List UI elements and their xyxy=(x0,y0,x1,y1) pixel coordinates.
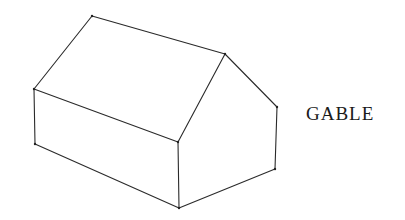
vertex-base_front xyxy=(178,207,180,209)
house-edges xyxy=(34,16,277,208)
vertex-base_right xyxy=(274,168,276,170)
edge-base_front-base_right xyxy=(179,169,275,208)
edge-ridge_front-eave_right xyxy=(225,54,277,107)
edge-eave_left-base_left xyxy=(34,89,35,144)
vertex-eave_front xyxy=(177,141,179,143)
vertex-eave_right xyxy=(276,106,278,108)
vertex-eave_left xyxy=(33,88,35,90)
edge-ridge_back-eave_left xyxy=(34,16,92,89)
edge-ridge_back-ridge_front xyxy=(92,16,225,54)
vertex-ridge_front xyxy=(224,53,226,55)
roof-type-label: GABLE xyxy=(306,103,374,125)
vertex-base_left xyxy=(34,143,36,145)
edge-base_left-base_front xyxy=(35,144,179,208)
edge-ridge_front-eave_front xyxy=(178,54,225,142)
edge-eave_front-base_front xyxy=(178,142,179,208)
vertex-ridge_back xyxy=(91,15,93,17)
edge-eave_right-base_right xyxy=(275,107,277,169)
edge-eave_left-eave_front xyxy=(34,89,178,142)
